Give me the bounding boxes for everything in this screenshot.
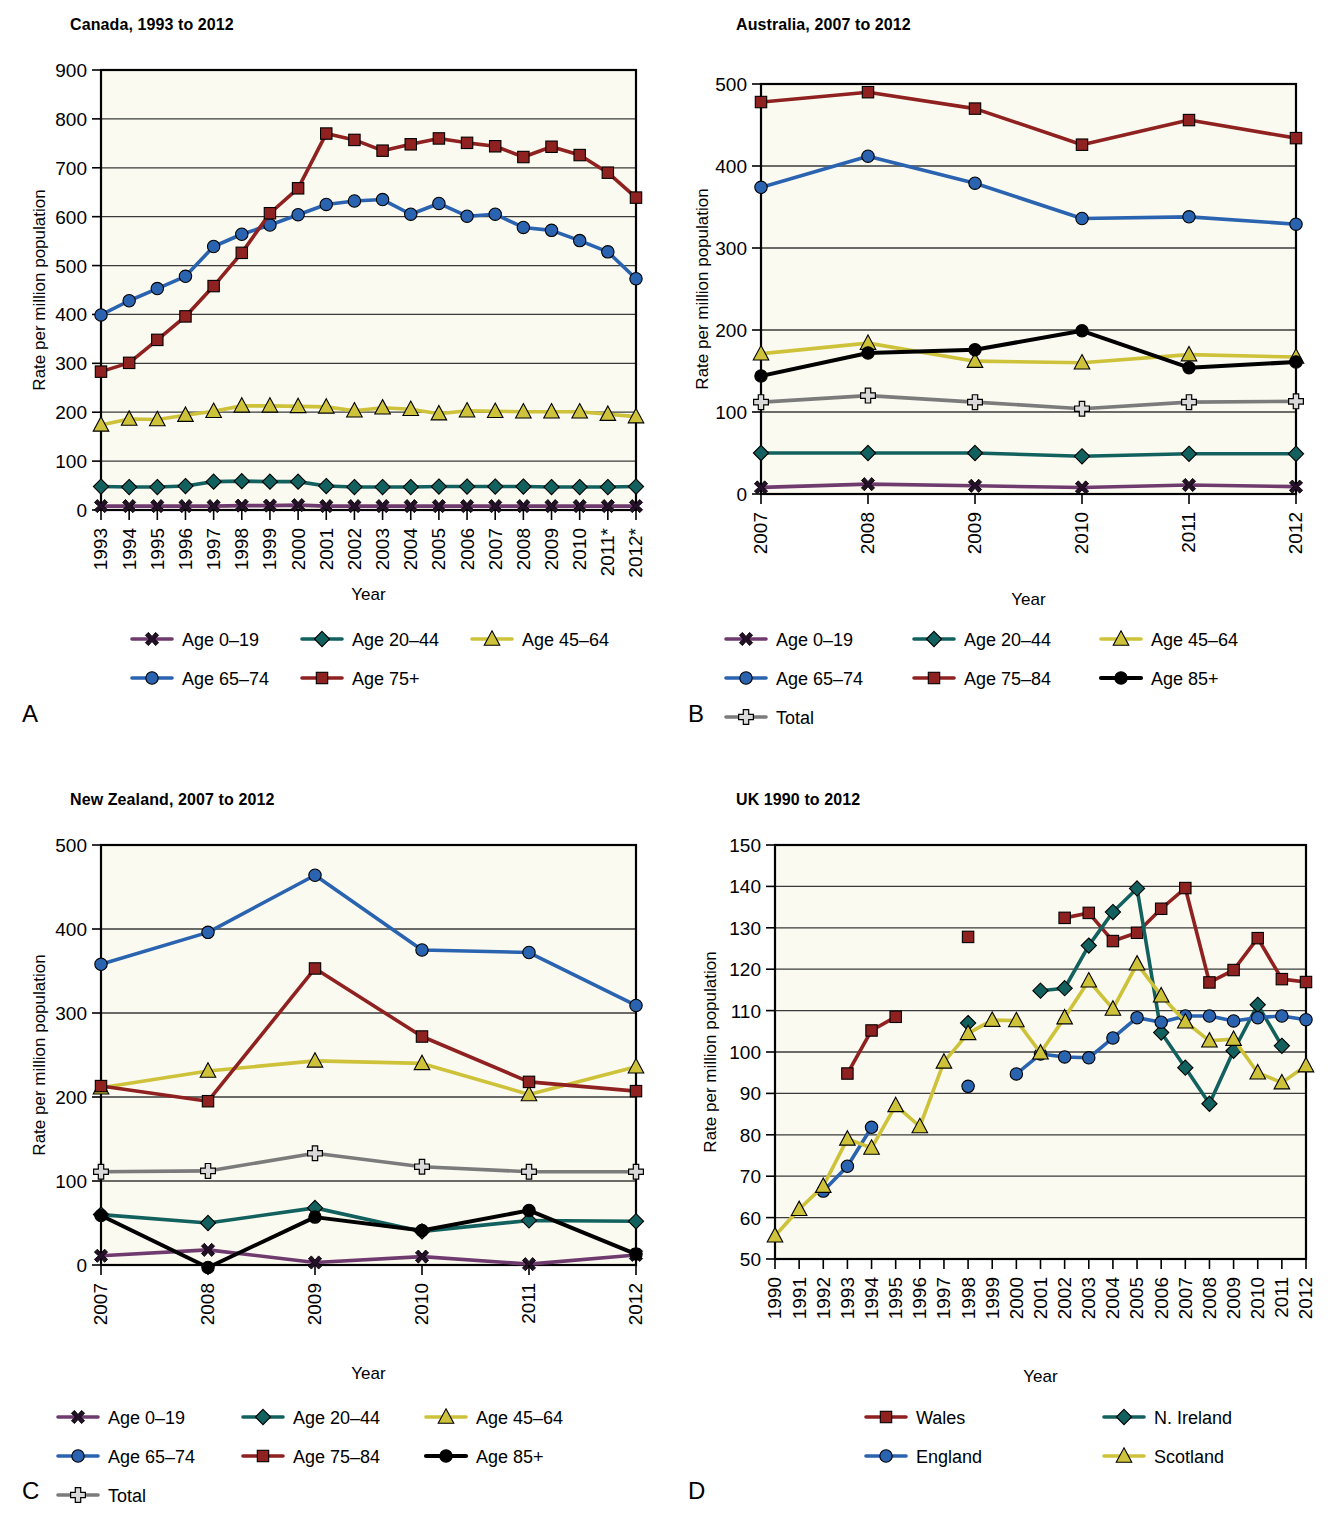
legend-item[interactable]: Age 85+ — [426, 1447, 544, 1467]
legend-item[interactable]: Total — [58, 1486, 146, 1506]
y-tick-label: 90 — [740, 1083, 761, 1104]
data-point-square — [546, 141, 557, 152]
legend-item[interactable]: Total — [726, 708, 814, 728]
x-tick-label: 2002 — [1054, 1277, 1075, 1319]
x-tick-label: 2010 — [411, 1283, 432, 1325]
legend-item[interactable]: Age 0–19 — [58, 1408, 185, 1428]
x-tick-label: 2007 — [90, 1283, 111, 1325]
legend-label: Age 65–74 — [776, 669, 863, 689]
x-tick-label: 1994 — [861, 1277, 882, 1320]
legend-item[interactable]: Age 0–19 — [132, 630, 259, 650]
x-tick-label: 1997 — [203, 528, 224, 570]
legend-label: Age 0–19 — [776, 630, 853, 650]
panel-a-title: Canada, 1993 to 2012 — [70, 16, 234, 34]
data-point-square — [1083, 907, 1094, 918]
x-tick-label: 2007 — [1175, 1277, 1196, 1319]
legend-item[interactable]: Age 85+ — [1101, 669, 1219, 689]
y-tick-label: 100 — [55, 451, 87, 472]
data-point-square — [1059, 912, 1070, 923]
data-point-square — [755, 96, 766, 107]
data-point-circle — [1300, 1014, 1312, 1026]
x-tick-label: 1994 — [119, 528, 140, 571]
data-point-circle — [72, 1450, 84, 1462]
legend-label: N. Ireland — [1154, 1408, 1232, 1428]
data-point-circle-black — [755, 370, 767, 382]
legend-label: Age 65–74 — [182, 669, 269, 689]
y-tick-label: 600 — [55, 207, 87, 228]
legend-item[interactable]: England — [866, 1447, 982, 1467]
x-tick-label: 1996 — [909, 1277, 930, 1319]
x-tick-label: 2004 — [1102, 1277, 1123, 1320]
y-tick-label: 100 — [729, 1042, 761, 1063]
legend-item[interactable]: Age 65–74 — [132, 669, 269, 689]
y-tick-label: 60 — [740, 1208, 761, 1229]
x-tick-label: 2001 — [316, 528, 337, 570]
x-axis-title: Year — [351, 585, 386, 604]
y-tick-label: 0 — [736, 484, 747, 505]
data-point-square — [518, 151, 529, 162]
y-tick-label: 500 — [55, 835, 87, 856]
legend-item[interactable]: Age 20–44 — [914, 630, 1051, 650]
y-tick-label: 500 — [55, 256, 87, 277]
x-tick-label: 1992 — [813, 1277, 834, 1319]
data-point-square — [416, 1031, 427, 1042]
data-point-square — [928, 672, 939, 683]
legend-item[interactable]: Age 0–19 — [726, 630, 853, 650]
data-point-square — [236, 247, 247, 258]
x-tick-label: 1993 — [90, 528, 111, 570]
legend-label: Age 65–74 — [108, 1447, 195, 1467]
legend-item[interactable]: Age 20–44 — [243, 1408, 380, 1428]
x-tick-label: 2007 — [750, 512, 771, 554]
legend-item[interactable]: Age 20–44 — [302, 630, 439, 650]
x-tick-label: 2009 — [304, 1283, 325, 1325]
x-tick-label: 1993 — [837, 1277, 858, 1319]
legend-item[interactable]: Age 45–64 — [426, 1408, 563, 1428]
legend-item[interactable]: Age 65–74 — [726, 669, 863, 689]
legend-item[interactable]: Age 75+ — [302, 669, 420, 689]
legend-item[interactable]: N. Ireland — [1104, 1408, 1232, 1428]
y-tick-label: 100 — [715, 402, 747, 423]
legend-label: Total — [108, 1486, 146, 1506]
data-point-circle — [95, 958, 107, 970]
y-tick-label: 80 — [740, 1125, 761, 1146]
data-point-circle-black — [416, 1224, 428, 1236]
panel-d-letter: D — [688, 1477, 705, 1505]
legend-item[interactable]: Wales — [866, 1408, 965, 1428]
data-point-square — [490, 141, 501, 152]
panel-canada: Canada, 1993 to 2012 0100200300400500600… — [0, 0, 666, 760]
data-point-circle-black — [95, 1209, 107, 1221]
x-tick-label: 2008 — [513, 528, 534, 570]
data-point-circle — [1183, 211, 1195, 223]
y-tick-label: 70 — [740, 1166, 761, 1187]
y-tick-label: 200 — [715, 320, 747, 341]
data-point-circle — [236, 228, 248, 240]
legend-label: Age 75–84 — [964, 669, 1051, 689]
x-tick-label: 1996 — [175, 528, 196, 570]
data-point-circle — [146, 672, 158, 684]
data-point-circle — [969, 177, 981, 189]
data-point-circle — [517, 221, 529, 233]
x-tick-label: 1990 — [764, 1277, 785, 1319]
y-tick-label: 140 — [729, 876, 761, 897]
data-point-square — [1290, 132, 1301, 143]
x-tick-label: 2012 — [1285, 512, 1306, 554]
data-point-circle-black — [969, 343, 981, 355]
legend-item[interactable]: Age 45–64 — [472, 630, 609, 650]
x-tick-label: 2003 — [1078, 1277, 1099, 1319]
legend-item[interactable]: Age 75–84 — [243, 1447, 380, 1467]
data-point-square — [962, 931, 973, 942]
y-tick-label: 300 — [715, 238, 747, 259]
legend-label: Age 45–64 — [522, 630, 609, 650]
data-point-circle-black — [309, 1211, 321, 1223]
data-point-square — [95, 1080, 106, 1091]
legend-item[interactable]: Scotland — [1104, 1447, 1224, 1467]
data-point-square — [1183, 114, 1194, 125]
data-point-circle — [630, 273, 642, 285]
data-point-circle-black — [1183, 362, 1195, 374]
x-tick-label: 2005 — [428, 528, 449, 570]
data-point-circle — [1155, 1016, 1167, 1028]
legend-item[interactable]: Age 65–74 — [58, 1447, 195, 1467]
legend-item[interactable]: Age 75–84 — [914, 669, 1051, 689]
legend-item[interactable]: Age 45–64 — [1101, 630, 1238, 650]
data-point-square — [1131, 927, 1142, 938]
